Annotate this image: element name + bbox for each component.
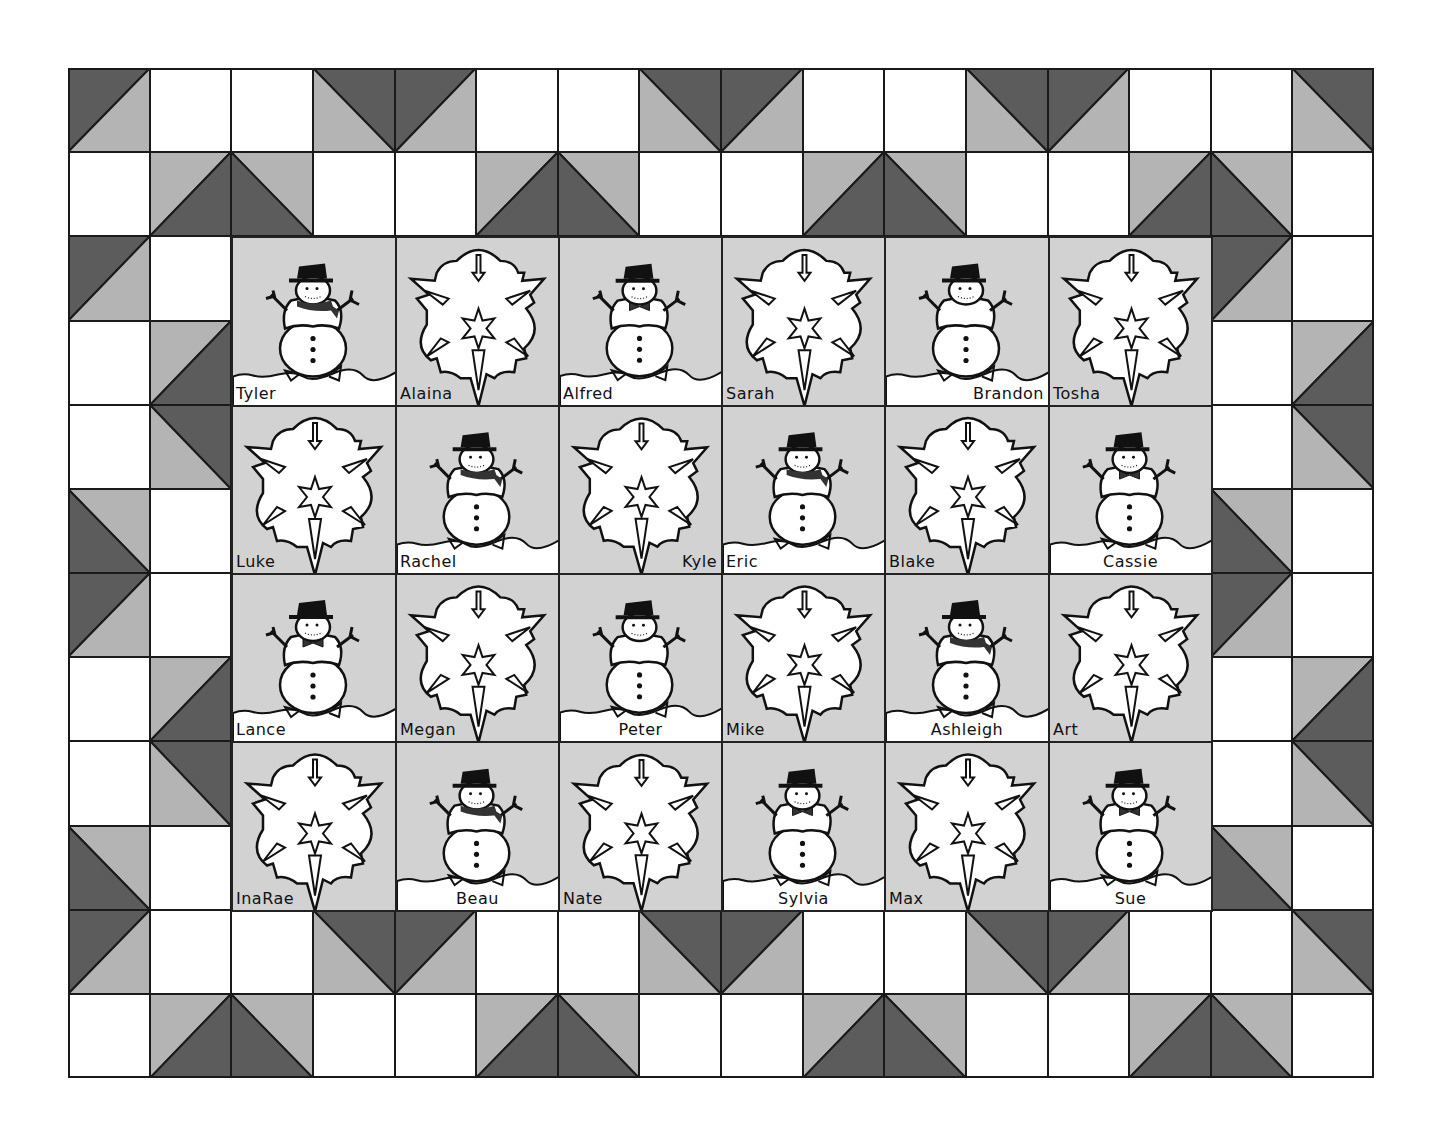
snowman-block: Brandon bbox=[884, 236, 1050, 407]
block-name-label: Peter bbox=[560, 721, 721, 739]
white-square bbox=[1211, 657, 1292, 741]
white-square bbox=[476, 910, 558, 994]
snowflake-block: Max bbox=[884, 741, 1050, 912]
snowflake-block: Kyle bbox=[558, 405, 723, 575]
white-square bbox=[1129, 910, 1211, 994]
white-square bbox=[1292, 826, 1374, 910]
block-name-label: Blake bbox=[889, 553, 935, 571]
white-square bbox=[721, 152, 803, 236]
snowman-icon bbox=[233, 575, 397, 743]
block-name-label: Ashleigh bbox=[886, 721, 1048, 739]
block-name-label: Lance bbox=[236, 721, 286, 739]
snowman-block: Beau bbox=[395, 741, 560, 912]
snowflake-icon bbox=[233, 743, 397, 912]
white-square bbox=[231, 68, 313, 152]
white-square bbox=[150, 236, 231, 321]
snowman-block: Lance bbox=[231, 573, 397, 743]
white-square bbox=[150, 68, 231, 152]
white-square bbox=[1048, 994, 1129, 1078]
block-name-label: Sylvia bbox=[723, 890, 884, 908]
snowman-block: Sue bbox=[1048, 741, 1213, 912]
white-square bbox=[1211, 321, 1292, 405]
white-square bbox=[395, 152, 476, 236]
snowflake-icon bbox=[397, 575, 560, 743]
snowman-icon bbox=[560, 575, 723, 743]
block-name-label: Art bbox=[1053, 721, 1078, 739]
snowman-icon bbox=[723, 407, 886, 575]
snowflake-icon bbox=[560, 407, 723, 575]
snowman-block: Eric bbox=[721, 405, 886, 575]
white-square bbox=[558, 68, 639, 152]
white-square bbox=[1292, 489, 1374, 573]
white-square bbox=[150, 489, 231, 573]
white-square bbox=[558, 910, 639, 994]
block-name-label: Max bbox=[889, 890, 924, 908]
snowflake-block: Megan bbox=[395, 573, 560, 743]
block-name-label: InaRae bbox=[236, 890, 294, 908]
white-square bbox=[1211, 910, 1292, 994]
white-square bbox=[68, 741, 150, 826]
white-square bbox=[150, 573, 231, 657]
snowman-block: Ashleigh bbox=[884, 573, 1050, 743]
block-name-label: Tosha bbox=[1053, 385, 1101, 403]
snowflake-block: InaRae bbox=[231, 741, 397, 912]
white-square bbox=[1048, 152, 1129, 236]
snowman-icon bbox=[397, 743, 560, 912]
white-square bbox=[68, 657, 150, 741]
white-square bbox=[1211, 68, 1292, 152]
block-name-label: Megan bbox=[400, 721, 456, 739]
snowman-icon bbox=[886, 238, 1050, 407]
white-square bbox=[721, 994, 803, 1078]
snowman-icon bbox=[723, 743, 886, 912]
block-name-label: Rachel bbox=[400, 553, 457, 571]
white-square bbox=[966, 994, 1048, 1078]
snowflake-icon bbox=[397, 238, 560, 407]
white-square bbox=[476, 68, 558, 152]
block-name-label: Tyler bbox=[236, 385, 276, 403]
white-square bbox=[1292, 152, 1374, 236]
white-square bbox=[639, 994, 721, 1078]
white-square bbox=[68, 994, 150, 1078]
snowflake-icon bbox=[233, 407, 397, 575]
white-square bbox=[395, 994, 476, 1078]
block-name-label: Sue bbox=[1050, 890, 1211, 908]
block-name-label: Brandon bbox=[973, 385, 1044, 403]
white-square bbox=[639, 152, 721, 236]
snowflake-block: Luke bbox=[231, 405, 397, 575]
block-name-label: Nate bbox=[563, 890, 603, 908]
white-square bbox=[966, 152, 1048, 236]
snowman-icon bbox=[1050, 743, 1213, 912]
white-square bbox=[884, 910, 966, 994]
white-square bbox=[313, 152, 395, 236]
quilt: TylerAlainaAlfredSarahBrandonToshaLukeRa… bbox=[68, 68, 1374, 1078]
white-square bbox=[803, 910, 884, 994]
snowman-block: Rachel bbox=[395, 405, 560, 575]
snowflake-block: Tosha bbox=[1048, 236, 1213, 407]
snowman-block: Tyler bbox=[231, 236, 397, 407]
snowman-icon bbox=[560, 238, 723, 407]
white-square bbox=[231, 910, 313, 994]
snowflake-icon bbox=[723, 575, 886, 743]
snowflake-block: Blake bbox=[884, 405, 1050, 575]
snowman-icon bbox=[886, 575, 1050, 743]
white-square bbox=[68, 321, 150, 405]
snowflake-block: Mike bbox=[721, 573, 886, 743]
snowflake-block: Sarah bbox=[721, 236, 886, 407]
snowflake-block: Art bbox=[1048, 573, 1213, 743]
snowflake-icon bbox=[560, 743, 723, 912]
snowman-icon bbox=[1050, 407, 1213, 575]
white-square bbox=[803, 68, 884, 152]
snowflake-icon bbox=[886, 407, 1050, 575]
white-square bbox=[68, 152, 150, 236]
white-square bbox=[150, 826, 231, 910]
white-square bbox=[68, 405, 150, 489]
block-name-label: Alfred bbox=[563, 385, 613, 403]
snowflake-icon bbox=[1050, 575, 1213, 743]
block-name-label: Luke bbox=[236, 553, 275, 571]
white-square bbox=[884, 68, 966, 152]
snowman-block: Cassie bbox=[1048, 405, 1213, 575]
snowflake-icon bbox=[1050, 238, 1213, 407]
snowflake-block: Nate bbox=[558, 741, 723, 912]
snowman-block: Peter bbox=[558, 573, 723, 743]
block-name-label: Alaina bbox=[400, 385, 453, 403]
